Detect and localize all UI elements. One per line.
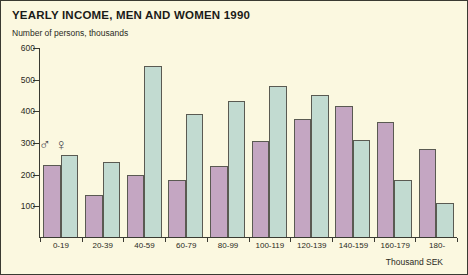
y-tick-label: 400 bbox=[21, 106, 35, 116]
bar-men bbox=[127, 175, 145, 237]
bar-men bbox=[85, 195, 103, 237]
bar-women bbox=[61, 155, 79, 237]
bar-men bbox=[252, 141, 270, 237]
bar-group bbox=[415, 48, 457, 237]
x-tick-label: 140-159 bbox=[333, 241, 375, 250]
bar-women bbox=[103, 162, 121, 237]
bar-men bbox=[210, 166, 228, 237]
bar-group bbox=[165, 48, 207, 237]
x-tick-label: 0-19 bbox=[40, 241, 82, 250]
bar-women bbox=[144, 66, 162, 237]
y-tick-label: 300 bbox=[21, 138, 35, 148]
chart-figure: YEARLY INCOME, MEN AND WOMEN 1990 Number… bbox=[0, 0, 468, 275]
bar-group bbox=[374, 48, 416, 237]
y-tick-label: 600 bbox=[21, 43, 35, 53]
venus-symbol-icon: ♀ bbox=[55, 137, 67, 153]
bar-men bbox=[419, 149, 437, 237]
x-tick-label: 40-59 bbox=[124, 241, 166, 250]
bar-group bbox=[207, 48, 249, 237]
x-tick-label: 180- bbox=[416, 241, 458, 250]
chart-legend: ♂ ♀ bbox=[39, 137, 67, 153]
bar-men bbox=[335, 106, 353, 237]
x-tick-label: 20-39 bbox=[82, 241, 124, 250]
x-tick-label: 80-99 bbox=[207, 241, 249, 250]
x-tick-label: 160-179 bbox=[374, 241, 416, 250]
x-axis-labels: 0-1920-3940-5960-7980-99100-119120-13914… bbox=[40, 241, 458, 250]
y-tick-label: 100 bbox=[21, 201, 35, 211]
chart-subtitle: Number of persons, thousands bbox=[12, 28, 128, 38]
bar-group bbox=[249, 48, 291, 237]
bar-men bbox=[377, 122, 395, 237]
bar-women bbox=[436, 203, 454, 237]
bar-women bbox=[311, 95, 329, 237]
y-tick-label: 200 bbox=[21, 170, 35, 180]
x-tick-label: 100-119 bbox=[249, 241, 291, 250]
x-tick-label: 60-79 bbox=[165, 241, 207, 250]
bar-women bbox=[394, 180, 412, 237]
bar-men bbox=[294, 119, 312, 237]
y-tick-label: 500 bbox=[21, 75, 35, 85]
bar-men bbox=[168, 180, 186, 237]
x-tick-label: 120-139 bbox=[291, 241, 333, 250]
bar-group bbox=[332, 48, 374, 237]
bar-group bbox=[123, 48, 165, 237]
bar-group bbox=[290, 48, 332, 237]
bar-women bbox=[228, 101, 246, 237]
x-axis-title: Thousand SEK bbox=[386, 257, 443, 267]
bar-women bbox=[269, 86, 287, 237]
bar-women bbox=[186, 114, 204, 238]
bar-groups bbox=[40, 48, 457, 237]
bar-women bbox=[353, 140, 371, 237]
mars-symbol-icon: ♂ bbox=[39, 137, 51, 153]
plot-area: 600500400300200100 bbox=[39, 48, 457, 238]
chart-title: YEARLY INCOME, MEN AND WOMEN 1990 bbox=[12, 9, 250, 21]
bar-men bbox=[43, 165, 61, 237]
bar-group bbox=[82, 48, 124, 237]
